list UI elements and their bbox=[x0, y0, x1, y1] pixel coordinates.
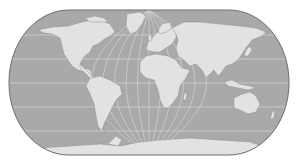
world-map bbox=[0, 0, 299, 168]
